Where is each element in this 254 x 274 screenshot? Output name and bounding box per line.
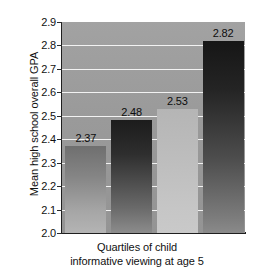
plot-area: [62, 22, 245, 233]
y-axis-tick-label: 2.2: [28, 181, 56, 191]
y-axis-tick-mark: [57, 92, 62, 93]
y-axis-tick-labels: 2.92.82.72.62.52.42.32.22.12.0: [26, 0, 56, 274]
bar: [111, 120, 152, 233]
y-axis-tick-mark: [57, 45, 62, 46]
bar: [65, 146, 106, 233]
y-axis-tick-mark: [57, 22, 62, 23]
y-axis-tick-label: 2.5: [28, 111, 56, 121]
bar-value-label: 2.53: [153, 96, 202, 107]
y-axis-tick-mark: [57, 116, 62, 117]
y-axis-tick-mark: [57, 163, 62, 164]
y-axis-tick-label: 2.4: [28, 134, 56, 144]
y-axis-tick-mark: [57, 186, 62, 187]
y-axis-tick-label: 2.8: [28, 40, 56, 50]
y-axis-tick-label: 2.9: [28, 17, 56, 27]
bar: [157, 109, 198, 233]
y-axis-tick-label: 2.1: [28, 205, 56, 215]
y-axis-tick-mark: [57, 210, 62, 211]
x-axis-title-line-1: Quartiles of child: [30, 240, 244, 254]
y-axis-tick-label: 2.3: [28, 158, 56, 168]
bar-value-label: 2.82: [199, 28, 248, 39]
bar-value-label: 2.37: [61, 133, 110, 144]
y-axis-tick-label: 2.6: [28, 87, 56, 97]
y-axis-tick-mark: [57, 233, 62, 234]
y-axis-tick-mark: [57, 139, 62, 140]
bar: [203, 41, 244, 233]
bar-value-label: 2.48: [107, 107, 156, 118]
y-axis-tick-mark: [57, 69, 62, 70]
bar-chart-figure: Mean high school overall GPA 2.92.82.72.…: [0, 0, 254, 274]
y-axis-tick-label: 2.7: [28, 64, 56, 74]
x-axis-title: Quartiles of child informative viewing a…: [30, 240, 244, 268]
y-axis-tick-label: 2.0: [28, 228, 56, 238]
x-axis-title-line-2: informative viewing at age 5: [30, 254, 244, 268]
